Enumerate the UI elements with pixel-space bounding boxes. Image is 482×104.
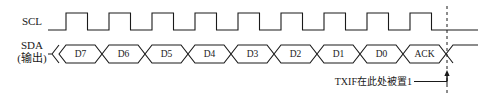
signal-label-scl: SCL <box>22 15 42 27</box>
sda-cell-label-d3: D3 <box>247 49 259 59</box>
sda-cell-label-d7: D7 <box>75 49 87 59</box>
signal-label-sda: SDA <box>21 39 43 51</box>
timing-diagram: SCL SDA (输出) D7D6D5D4D3D2D1D0ACK TXIF在此处… <box>0 0 482 104</box>
sda-lead-in <box>48 45 59 63</box>
annotation-text-txif: TXIF在此处被置1 <box>335 75 412 87</box>
sda-cell-label-d6: D6 <box>118 49 130 59</box>
sda-cell-label-d4: D4 <box>204 49 216 59</box>
sda-tail-out <box>446 45 478 63</box>
sda-data-cells: D7D6D5D4D3D2D1D0ACK <box>59 45 446 63</box>
sda-cell-label-d0: D0 <box>376 49 388 59</box>
sda-cell-label-ack: ACK <box>414 49 434 59</box>
signal-label-sda-direction: (输出) <box>17 51 47 65</box>
annotation-leader-line <box>414 76 447 82</box>
sda-cell-label-d1: D1 <box>333 49 345 59</box>
waveform-canvas: SCL SDA (输出) D7D6D5D4D3D2D1D0ACK TXIF在此处… <box>0 0 482 104</box>
scl-clock-waveform <box>48 13 478 30</box>
sda-cell-label-d5: D5 <box>161 49 173 59</box>
sda-cell-label-d2: D2 <box>290 49 302 59</box>
